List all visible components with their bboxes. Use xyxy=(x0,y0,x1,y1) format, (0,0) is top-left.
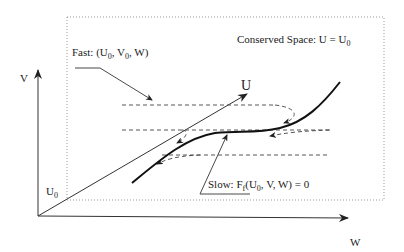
conserved-space-label: Conserved Space: U = U0 xyxy=(237,33,350,48)
u-axis-label: U xyxy=(241,78,251,93)
w-axis-label: W xyxy=(350,236,361,248)
slow-label: Slow: Ff(U0, V, W) = 0 xyxy=(208,178,310,193)
w-axis xyxy=(38,216,348,218)
fast-slow-diagram: V W U U0 Conserved Space: U = U0 Fast: (… xyxy=(0,0,404,252)
slow-manifold-curve xyxy=(132,82,340,183)
fast-label-pointer xyxy=(75,68,152,100)
fast-return-bottom xyxy=(157,155,200,164)
fast-return-middle-right xyxy=(270,130,330,136)
u-axis xyxy=(38,94,247,216)
v-axis-label: V xyxy=(20,72,28,84)
fast-label: Fast: (U0, V0, W) xyxy=(72,46,149,61)
u0-label: U0 xyxy=(46,185,58,200)
fast-return-top xyxy=(275,105,294,123)
